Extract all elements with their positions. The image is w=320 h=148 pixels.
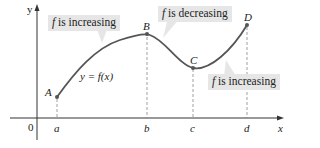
point-b-marker	[145, 32, 149, 36]
x-axis-arrow-icon	[277, 116, 284, 121]
curve-label: y = f(x)	[80, 71, 113, 82]
callout-text: is decreasing	[165, 7, 228, 19]
point-b-label: B	[143, 21, 150, 32]
callout-text: is increasing	[215, 75, 276, 87]
callout-increasing-1: f is increasing	[48, 15, 120, 31]
x-axis-label: x	[278, 123, 283, 134]
y-axis-label: y	[27, 4, 33, 15]
tick-b: b	[144, 123, 150, 134]
callout-text: is increasing	[55, 16, 116, 28]
point-d-marker	[245, 23, 249, 27]
tick-a: a	[54, 123, 60, 134]
tick-c: c	[190, 123, 195, 134]
point-a-label: A	[45, 87, 52, 98]
point-c-marker	[191, 66, 195, 70]
point-d-label: D	[244, 12, 252, 23]
callout-decreasing: f is decreasing	[158, 6, 232, 22]
point-c-label: C	[190, 55, 197, 66]
y-axis-arrow-icon	[35, 4, 40, 11]
tick-d: d	[244, 123, 250, 134]
point-a-marker	[55, 95, 59, 99]
origin-label: 0	[28, 122, 34, 133]
callout-increasing-2: f is increasing	[208, 74, 280, 90]
